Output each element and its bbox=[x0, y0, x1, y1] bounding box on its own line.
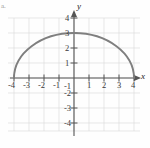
axis-arrowheads bbox=[71, 10, 141, 81]
x-tick-label-neg2: -2 bbox=[38, 81, 45, 90]
x-tick-label-neg1: -1 bbox=[53, 81, 60, 90]
semicircle-figure: a. bbox=[0, 0, 150, 148]
y-tick-label-neg4: -4 bbox=[64, 119, 71, 128]
coordinate-plane bbox=[0, 0, 150, 148]
x-tick-label-neg3: -3 bbox=[23, 81, 30, 90]
y-axis-arrow bbox=[71, 10, 77, 17]
y-axis-label: y bbox=[77, 2, 81, 11]
x-tick-label-neg4: -4 bbox=[8, 81, 15, 90]
y-tick-label-2: 2 bbox=[65, 44, 69, 53]
x-tick-label-4: 4 bbox=[131, 81, 135, 90]
x-tick-label-3: 3 bbox=[117, 81, 121, 90]
x-tick-label-2: 2 bbox=[102, 81, 106, 90]
y-tick-label-4: 4 bbox=[65, 14, 69, 23]
y-tick-label-neg3: -3 bbox=[64, 104, 71, 113]
x-tick-label-1: 1 bbox=[87, 81, 91, 90]
y-tick-label-neg2: -2 bbox=[64, 89, 71, 98]
y-tick-label-3: 3 bbox=[65, 29, 69, 38]
y-tick-label-1: 1 bbox=[65, 59, 69, 68]
x-axis-label: x bbox=[141, 72, 145, 81]
